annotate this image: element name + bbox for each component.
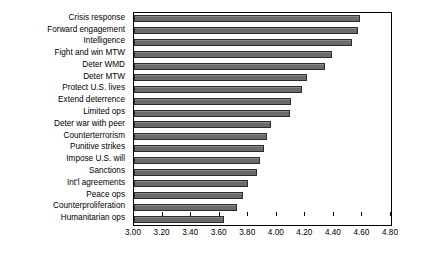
category-label: Int'l agreements (0, 177, 129, 189)
bar-row (134, 178, 391, 190)
category-label: Counterproliferation (0, 201, 129, 213)
bar (134, 192, 243, 199)
axis-tick (276, 212, 277, 216)
plot-area (133, 12, 392, 226)
category-label: Limited ops (0, 106, 129, 118)
axis-tick-label: 3.00 (125, 228, 141, 237)
category-label: Intelligence (0, 36, 129, 48)
axis-tick-label: 4.80 (382, 228, 398, 237)
bar-row (134, 154, 391, 166)
axis-tick (361, 212, 362, 216)
axis-tick-label: 3.20 (154, 228, 170, 237)
bar-row (134, 131, 391, 143)
category-label: Counterterrorism (0, 130, 129, 142)
axis-tick (162, 212, 163, 216)
category-label: Impose U.S. will (0, 153, 129, 165)
category-label: Protect U.S. lives (0, 83, 129, 95)
bar-chart: Crisis responseForward engagementIntelli… (0, 0, 421, 262)
bar (134, 145, 264, 152)
bar (134, 74, 307, 81)
axis-tick-label: 3.60 (211, 228, 227, 237)
bar-row (134, 13, 391, 25)
bar (134, 15, 360, 22)
bar-row (134, 95, 391, 107)
axis-tick (190, 212, 191, 216)
category-label: Sanctions (0, 165, 129, 177)
bar-row (134, 107, 391, 119)
category-label: Peace ops (0, 189, 129, 201)
category-label: Deter MTW (0, 71, 129, 83)
bar (134, 51, 332, 58)
axis-tick-label: 4.60 (353, 228, 369, 237)
category-label: Humanitarian ops (0, 212, 129, 224)
bar (134, 169, 257, 176)
bar (134, 63, 325, 70)
bar (134, 157, 260, 164)
axis-tick-label: 4.00 (268, 228, 284, 237)
category-label: Deter WMD (0, 59, 129, 71)
axis-tick (333, 212, 334, 216)
category-label: Punitive strikes (0, 142, 129, 154)
bar-row (134, 25, 391, 37)
category-label: Fight and win MTW (0, 47, 129, 59)
bar (134, 216, 224, 223)
bar (134, 180, 248, 187)
category-label: Crisis response (0, 12, 129, 24)
axis-tick-label: 3.80 (239, 228, 255, 237)
category-label: Forward engagement (0, 24, 129, 36)
bar-row (134, 48, 391, 60)
category-axis-labels: Crisis responseForward engagementIntelli… (0, 12, 129, 224)
axis-tick (219, 212, 220, 216)
bar-row (134, 143, 391, 155)
bar (134, 27, 358, 34)
bar (134, 121, 271, 128)
bar (134, 86, 302, 93)
bar-row (134, 84, 391, 96)
bars-container (134, 13, 391, 225)
axis-tick (390, 212, 391, 216)
bar (134, 204, 237, 211)
bar-row (134, 37, 391, 49)
bar-row (134, 190, 391, 202)
axis-tick (304, 212, 305, 216)
axis-tick-label: 4.40 (325, 228, 341, 237)
bar-row (134, 166, 391, 178)
axis-tick (133, 212, 134, 216)
bar (134, 133, 267, 140)
bar (134, 39, 352, 46)
bar-row (134, 213, 391, 225)
bar-row (134, 202, 391, 214)
bar-row (134, 60, 391, 72)
bar-row (134, 119, 391, 131)
axis-tick (247, 212, 248, 216)
category-label: Extend deterrence (0, 94, 129, 106)
category-label: Deter war with peer (0, 118, 129, 130)
bar (134, 110, 290, 117)
axis-tick-label: 3.40 (182, 228, 198, 237)
bar-row (134, 72, 391, 84)
bar (134, 98, 291, 105)
axis-tick-label: 4.20 (296, 228, 312, 237)
